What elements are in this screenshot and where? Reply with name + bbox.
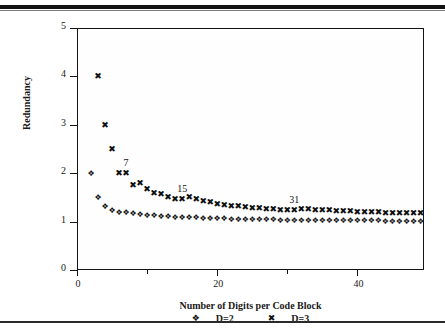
x-axis-tick-label: 40 [353,279,363,289]
x-axis-minor-tick [287,270,288,274]
point-annotation: 7 [124,158,129,168]
x-axis-tick-label: 0 [76,279,81,289]
y-axis-tick-label: 1 [61,215,66,225]
y-axis-tick: 3 [70,125,77,126]
y-axis-tick-label: 0 [61,263,66,273]
y-axis-tick: 5 [70,28,77,29]
y-axis-tick-label: 5 [61,21,66,31]
x-axis-minor-tick [147,270,148,274]
point-annotation: 15 [177,184,187,194]
annotations-layer: 71531 [77,28,424,270]
x-axis-tick: 40 [357,270,358,276]
point-annotation: 31 [289,195,299,205]
y-axis-tick: 4 [70,76,77,77]
page-rule-top [0,5,445,9]
figure-container: 01234502040 ❖❖❖❖❖❖❖❖❖❖❖❖❖❖❖❖❖❖❖❖❖❖❖❖❖❖❖❖… [0,12,445,318]
y-axis-tick-label: 2 [61,166,66,176]
page-rule-top-thin [0,10,445,11]
y-axis-tick: 0 [70,270,77,271]
y-axis-title: Redundancy [22,76,32,130]
page-rule-bottom [0,321,445,323]
x-axis-tick: 0 [77,270,78,276]
x-axis-tick: 20 [217,270,218,276]
y-axis-tick: 2 [70,173,77,174]
y-axis-tick-label: 3 [61,118,66,128]
y-axis-tick: 1 [70,222,77,223]
x-axis-title: Number of Digits per Code Block [77,300,424,311]
x-axis-tick-label: 20 [213,279,223,289]
y-axis-tick-label: 4 [61,69,66,79]
